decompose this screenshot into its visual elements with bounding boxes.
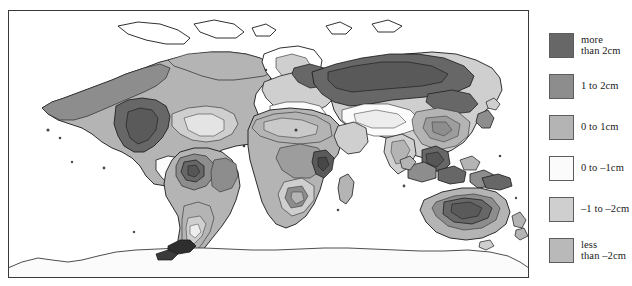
shading-legend: more than 2cm 1 to 2cm 0 to 1cm 0 to –1c… [549, 18, 632, 270]
legend-swatch-0-to-minus-1cm [549, 156, 574, 181]
legend-item-0-to-minus-1cm: 0 to –1cm [549, 153, 624, 183]
legend-swatch-1-to-2cm [549, 74, 574, 99]
legend-item-less-than-minus-2cm: less than –2cm [549, 235, 626, 265]
map-panel [8, 10, 529, 278]
legend-swatch-less-than-minus-2cm [549, 238, 574, 263]
legend-label-more-than-2cm: more than 2cm [581, 34, 621, 56]
world-map [8, 10, 529, 278]
legend-item-minus-1-to-minus-2cm: –1 to –2cm [549, 194, 629, 224]
legend-swatch-0-to-1cm [549, 115, 574, 140]
world-anomaly-figure: more than 2cm 1 to 2cm 0 to 1cm 0 to –1c… [0, 0, 632, 286]
legend-label-less-than-minus-2cm: less than –2cm [581, 239, 626, 261]
legend-label-1-to-2cm: 1 to 2cm [581, 80, 619, 91]
legend-label-0-to-1cm: 0 to 1cm [581, 121, 619, 132]
legend-label-0-to-minus-1cm: 0 to –1cm [581, 162, 624, 173]
legend-swatch-minus-1-to-minus-2cm [549, 197, 574, 222]
legend-label-minus-1-to-minus-2cm: –1 to –2cm [581, 203, 629, 214]
legend-item-0-to-1cm: 0 to 1cm [549, 112, 619, 142]
legend-item-1-to-2cm: 1 to 2cm [549, 71, 619, 101]
legend-item-more-than-2cm: more than 2cm [549, 30, 621, 60]
legend-swatch-more-than-2cm [549, 33, 574, 58]
